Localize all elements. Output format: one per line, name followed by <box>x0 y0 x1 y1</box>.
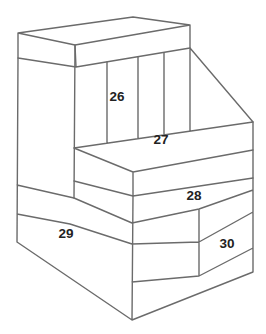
brick-label-27: 27 <box>153 132 168 147</box>
brick-label-28: 28 <box>186 188 202 203</box>
brick-label-29: 29 <box>58 226 73 241</box>
staircase-diagram: 26 27 28 29 30 <box>0 0 266 334</box>
brick-label-26: 26 <box>109 89 125 104</box>
base-edges <box>17 58 253 320</box>
figure-canvas: 26 27 28 29 30 <box>0 0 266 334</box>
brick-label-30: 30 <box>219 236 234 251</box>
middle-step-edges <box>74 148 253 196</box>
upper-wall-brick-edges <box>74 45 253 198</box>
